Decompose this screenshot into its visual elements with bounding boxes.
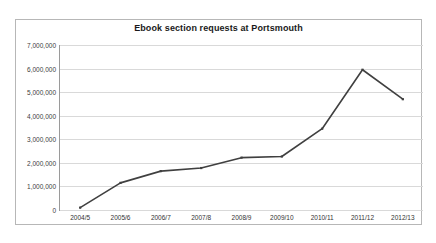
y-axis-tick-label: 6,000,000: [27, 65, 56, 72]
y-axis-tick-label: 4,000,000: [27, 112, 56, 119]
y-axis-tick-label: 3,000,000: [27, 136, 56, 143]
x-axis-tick-label: 2008/9: [232, 214, 252, 221]
x-axis-tick-label: 2009/10: [270, 214, 294, 221]
data-point-marker: [79, 207, 81, 209]
series-line: [80, 70, 403, 208]
x-axis-tick-label: 2005/6: [111, 214, 131, 221]
x-axis-tick-label: 2011/12: [351, 214, 374, 221]
data-point-marker: [240, 157, 242, 159]
x-axis-tick-label: 2012/13: [391, 214, 415, 221]
x-axis-tick-label: 2007/8: [191, 214, 211, 221]
x-axis-tick-labels: 2004/52005/62006/72007/82008/92009/10201…: [16, 214, 421, 228]
x-axis-tick-label: 2006/7: [151, 214, 171, 221]
plot-area: [60, 45, 423, 210]
data-point-marker: [361, 69, 363, 71]
chart-container: Ebook section requests at Portsmouth 01,…: [15, 19, 422, 225]
data-point-marker: [281, 155, 283, 157]
data-point-marker: [321, 128, 323, 130]
data-point-marker: [160, 170, 162, 172]
data-point-marker: [402, 98, 404, 100]
data-point-marker: [119, 182, 121, 184]
y-axis-tick-label: 7,000,000: [27, 42, 56, 49]
y-axis-tick-label: 1,000,000: [27, 183, 56, 190]
y-axis-tick-label: 5,000,000: [27, 89, 56, 96]
line-series: [60, 45, 423, 210]
gridline: [60, 210, 423, 211]
chart-title: Ebook section requests at Portsmouth: [16, 23, 421, 33]
data-point-marker: [200, 167, 202, 169]
x-axis-tick-label: 2010/11: [311, 214, 334, 221]
x-axis-tick-label: 2004/5: [70, 214, 90, 221]
y-axis-tick-label: 2,000,000: [27, 159, 56, 166]
y-axis-tick-labels: 01,000,0002,000,0003,000,0004,000,0005,0…: [16, 20, 56, 224]
y-axis-tick-label: 0: [52, 207, 56, 214]
